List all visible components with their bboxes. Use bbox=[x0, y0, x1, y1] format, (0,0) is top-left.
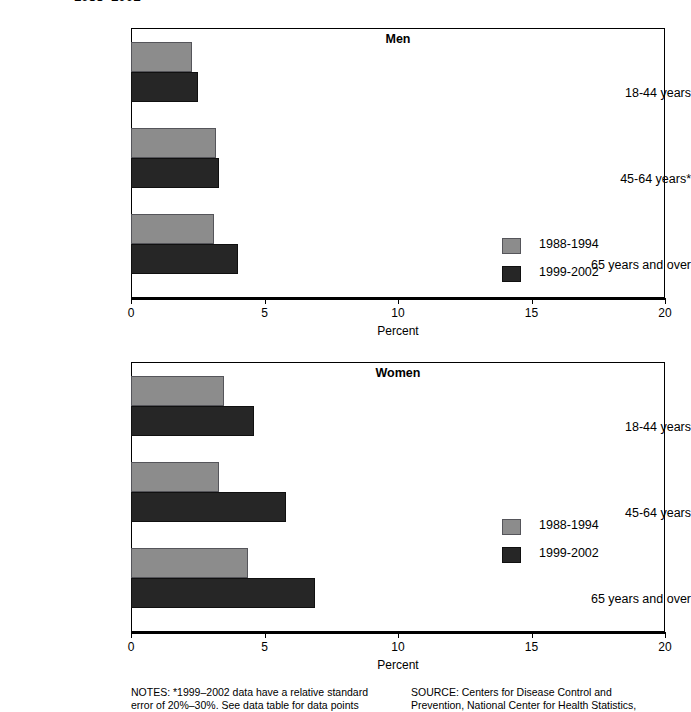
legend-label: 1988-1994 bbox=[539, 518, 599, 532]
bar-group bbox=[131, 128, 665, 188]
bar-1999-2002 bbox=[131, 492, 286, 522]
x-tick bbox=[265, 632, 266, 638]
x-tick-label: 15 bbox=[512, 640, 552, 654]
x-tick bbox=[398, 632, 399, 638]
chart-panel-women: Women 18-44 years45-64 years65 years and… bbox=[0, 362, 691, 692]
bar-1999-2002 bbox=[131, 244, 238, 274]
x-tick bbox=[665, 632, 666, 638]
bar-group bbox=[131, 376, 665, 436]
bar-1999-2002 bbox=[131, 158, 219, 188]
figure-title: 1988–2002 bbox=[74, 0, 141, 4]
bar-1988-1994 bbox=[131, 128, 216, 158]
x-tick-label: 0 bbox=[111, 640, 151, 654]
legend-label: 1999-2002 bbox=[539, 265, 599, 279]
x-tick-label: 10 bbox=[378, 640, 418, 654]
legend-label: 1988-1994 bbox=[539, 237, 599, 251]
notes-footnote: NOTES: *1999–2002 data have a relative s… bbox=[131, 686, 396, 712]
x-tick bbox=[398, 298, 399, 304]
legend-label: 1999-2002 bbox=[539, 546, 599, 560]
x-tick bbox=[131, 298, 132, 304]
bar-1988-1994 bbox=[131, 42, 192, 72]
x-tick bbox=[131, 632, 132, 638]
x-tick-label: 10 bbox=[378, 306, 418, 320]
x-axis-title-women: Percent bbox=[131, 658, 665, 672]
legend-swatch-1999-2002 bbox=[502, 266, 521, 282]
panel-title-women: Women bbox=[131, 366, 665, 380]
x-tick-label: 20 bbox=[645, 306, 685, 320]
source-footnote: SOURCE: Centers for Disease Control and … bbox=[411, 686, 681, 712]
x-tick-label: 20 bbox=[645, 640, 685, 654]
x-tick bbox=[532, 632, 533, 638]
x-tick-label: 5 bbox=[245, 640, 285, 654]
x-tick bbox=[265, 298, 266, 304]
panel-title-men: Men bbox=[131, 32, 665, 46]
chart-panel-men: Men 18-44 years45-64 years*65 years and … bbox=[0, 28, 691, 358]
bar-1988-1994 bbox=[131, 462, 219, 492]
bar-1999-2002 bbox=[131, 72, 198, 102]
bar-group bbox=[131, 42, 665, 102]
x-axis-title-men: Percent bbox=[131, 324, 665, 338]
bar-1988-1994 bbox=[131, 376, 224, 406]
x-tick bbox=[665, 298, 666, 304]
x-tick-label: 15 bbox=[512, 306, 552, 320]
bar-1988-1994 bbox=[131, 548, 248, 578]
bar-1988-1994 bbox=[131, 214, 214, 244]
bar-1999-2002 bbox=[131, 578, 315, 608]
x-tick bbox=[532, 298, 533, 304]
x-tick-label: 0 bbox=[111, 306, 151, 320]
legend-swatch-1988-1994 bbox=[502, 519, 521, 535]
x-tick-label: 5 bbox=[245, 306, 285, 320]
bar-1999-2002 bbox=[131, 406, 254, 436]
bar-group bbox=[131, 462, 665, 522]
legend-swatch-1988-1994 bbox=[502, 238, 521, 254]
legend-swatch-1999-2002 bbox=[502, 547, 521, 563]
